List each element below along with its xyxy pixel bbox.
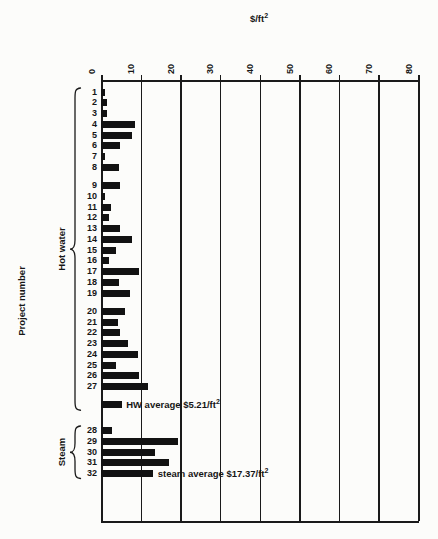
x-tick-label: 20	[166, 64, 176, 74]
bar-project-29	[101, 438, 178, 445]
bar-project-10	[101, 193, 105, 200]
bar-chart: $/ft2 Project number 0102030405060708012…	[0, 0, 438, 539]
x-tick-label: 10	[126, 64, 136, 74]
x-tick-mark	[101, 75, 103, 80]
bar-project-25	[101, 362, 116, 369]
x-tick-mark	[260, 75, 262, 80]
bar-project-23	[101, 340, 128, 347]
x-axis-title-superscript: 2	[264, 12, 268, 19]
bar-project-26	[101, 372, 139, 379]
bar-project-14	[101, 236, 132, 243]
bar-project-5	[101, 132, 132, 139]
bar-project-8	[101, 164, 119, 171]
steam-brace	[69, 425, 82, 480]
gridline	[378, 80, 380, 521]
x-tick-label: 70	[364, 64, 374, 74]
bar-project-19	[101, 290, 130, 297]
hw-average-annotation: HW average $5.21/ft2	[126, 400, 220, 410]
bar-project-13	[101, 225, 120, 232]
x-tick-mark	[339, 75, 341, 80]
hw-average-bar	[101, 401, 122, 408]
group-label-steam: Steam	[56, 438, 67, 467]
x-tick-label: 60	[324, 64, 334, 74]
bar-project-31	[101, 459, 169, 466]
bar-project-22	[101, 329, 120, 336]
bar-project-9	[101, 182, 120, 189]
x-tick-label: 30	[205, 64, 215, 74]
group-label-hot-water: Hot water	[56, 227, 67, 270]
gridline	[299, 80, 301, 521]
y-axis-label: Project number	[16, 266, 27, 336]
hot-water-brace	[69, 87, 82, 411]
x-tick-mark	[299, 75, 301, 80]
bar-project-3	[101, 110, 107, 117]
bar-project-32	[101, 470, 153, 477]
average-annotation: steam average $17.37/ft2	[158, 469, 269, 479]
x-tick-label: 40	[245, 64, 255, 74]
x-tick-mark	[180, 75, 182, 80]
bar-project-12	[101, 214, 109, 221]
bar-project-24	[101, 351, 138, 358]
bar-project-2	[101, 99, 107, 106]
gridline	[260, 80, 262, 521]
bar-project-21	[101, 319, 118, 326]
x-tick-label: 50	[285, 64, 295, 74]
bar-project-28	[101, 427, 112, 434]
plot-bottom-border	[101, 521, 419, 523]
gridline	[418, 80, 420, 521]
x-tick-mark	[418, 75, 420, 80]
x-tick-label: 80	[404, 64, 414, 74]
bar-project-11	[101, 204, 111, 211]
bar-project-6	[101, 142, 120, 149]
gridline	[180, 80, 182, 521]
x-tick-mark	[141, 75, 143, 80]
x-tick-label: 0	[87, 69, 97, 74]
bar-project-1	[101, 89, 105, 96]
bar-project-16	[101, 257, 109, 264]
bar-project-27	[101, 383, 148, 390]
gridline	[339, 80, 341, 521]
bar-project-17	[101, 268, 139, 275]
bar-project-15	[101, 247, 116, 254]
x-axis-title-text: $/ft	[250, 13, 264, 24]
bar-project-20	[101, 308, 125, 315]
bar-project-7	[101, 153, 105, 160]
x-axis-title: $/ft2	[250, 13, 268, 24]
bar-project-30	[101, 449, 155, 456]
bar-project-18	[101, 279, 119, 286]
bar-project-4	[101, 121, 135, 128]
gridline	[220, 80, 222, 521]
x-tick-mark	[378, 75, 380, 80]
x-tick-mark	[220, 75, 222, 80]
